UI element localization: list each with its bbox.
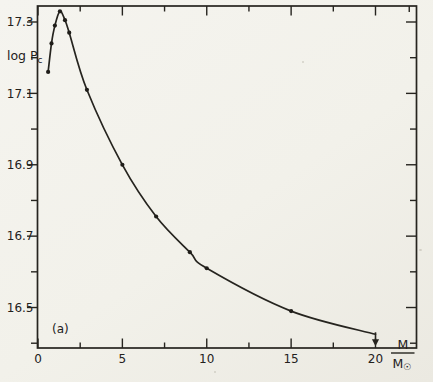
panel-label: (a) xyxy=(52,322,69,336)
y-tick-label: 17.3 xyxy=(7,15,34,29)
data-point xyxy=(205,266,209,270)
scan-speck xyxy=(419,249,422,251)
scan-speck xyxy=(302,61,304,63)
data-point xyxy=(63,18,67,22)
x-axis-label-denominator: M☉ xyxy=(393,356,412,372)
sun-symbol-subscript: ☉ xyxy=(403,362,411,372)
x-axis-label-numerator: M xyxy=(398,337,409,352)
data-point xyxy=(120,163,124,167)
y-tick-label: 16.9 xyxy=(7,158,34,172)
y-axis-ticks xyxy=(27,22,417,343)
data-points xyxy=(46,9,293,313)
scan-speck xyxy=(214,371,216,373)
data-point xyxy=(46,70,50,74)
pressure-vs-mass-chart: 05101520 17.317.116.916.716.5 log Pc (a)… xyxy=(0,0,433,382)
x-axis-tick-labels: 05101520 xyxy=(34,352,383,366)
x-axis-label-denominator-text: M xyxy=(393,356,404,371)
data-point xyxy=(49,41,53,45)
data-point xyxy=(85,88,89,92)
x-tick-label: 10 xyxy=(199,352,214,366)
y-tick-label: 17.1 xyxy=(7,87,34,101)
x-axis-ticks xyxy=(38,6,409,348)
x-tick-label: 15 xyxy=(283,352,298,366)
x-tick-label: 0 xyxy=(34,352,42,366)
data-point xyxy=(154,214,158,218)
y-axis-label: log Pc xyxy=(7,48,43,65)
x-axis-label: M M☉ xyxy=(391,337,415,372)
data-point xyxy=(58,9,62,13)
y-axis-label-subscript: c xyxy=(38,55,43,65)
data-curve xyxy=(48,11,375,334)
data-point xyxy=(289,309,293,313)
data-point xyxy=(188,250,192,254)
data-point xyxy=(67,31,71,35)
y-axis-label-text: log P xyxy=(7,48,38,63)
x-tick-label: 20 xyxy=(368,352,383,366)
y-tick-label: 16.7 xyxy=(7,229,34,243)
x-tick-label: 5 xyxy=(119,352,127,366)
scanned-figure-page: 05101520 17.317.116.916.716.5 log Pc (a)… xyxy=(0,0,433,382)
y-tick-label: 16.5 xyxy=(7,301,34,315)
data-point xyxy=(53,23,57,27)
plot-frame xyxy=(38,6,417,348)
